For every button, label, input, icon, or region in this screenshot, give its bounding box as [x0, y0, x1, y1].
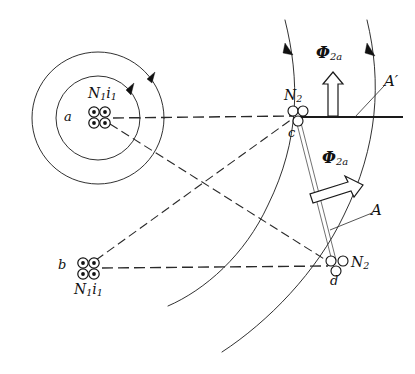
label-phi-diagonal: Φ — [322, 148, 336, 167]
label-axis-a-prime: A′ — [384, 74, 398, 89]
label-point-c: c — [288, 126, 295, 139]
label-primary-mmf-top: N1i1 — [88, 86, 117, 102]
leader-a-prime — [355, 86, 384, 117]
label-secondary-top: N2 — [284, 88, 302, 104]
label-N2-top-sub: 2 — [296, 93, 302, 104]
leader-a — [330, 213, 372, 230]
label-secondary-bottom: N2 — [351, 255, 369, 271]
label-i-bottom-sub: 1 — [97, 287, 103, 298]
label-axis-a: A — [371, 203, 382, 218]
hollow-block-arrow-up — [323, 72, 343, 116]
label-flux-vertical: Φ2a — [316, 45, 342, 62]
label-point-a: a — [64, 110, 72, 123]
outer-circle-arrowhead — [147, 72, 155, 83]
label-i-top-sub: 1 — [111, 91, 117, 102]
label-phi-vertical-sub: 2a — [330, 51, 342, 62]
secondary-coil-c — [288, 106, 308, 126]
label-phi-vertical: Φ — [316, 43, 330, 62]
label-N-top: N — [88, 85, 100, 101]
inner-circle-arrowhead — [126, 83, 134, 95]
centerline-b-to-d — [102, 266, 328, 268]
outer-field-circle — [32, 52, 164, 184]
diagonal-b-to-c — [96, 119, 292, 260]
primary-coil-a — [89, 107, 110, 128]
label-N2-top: N — [284, 87, 296, 103]
figure-canvas: a N1i1 b N1i1 N2 c N2 d Φ2a Φ2a A′ A — [0, 0, 415, 374]
field-arc-outer-arrowhead — [365, 43, 375, 56]
diagram-vector-layer — [0, 0, 415, 374]
label-phi-diagonal-sub: 2a — [336, 156, 348, 167]
label-primary-mmf-bottom: N1i1 — [74, 282, 103, 298]
label-N-bottom: N — [74, 281, 86, 297]
field-arc-inner-arrowhead — [283, 43, 293, 55]
label-flux-diagonal: Φ2a — [322, 150, 348, 167]
primary-coil-b — [78, 258, 99, 279]
label-point-d: d — [330, 274, 338, 287]
label-point-b: b — [58, 258, 66, 271]
label-N2-bottom: N — [351, 254, 363, 270]
label-N2-bottom-sub: 2 — [363, 260, 369, 271]
diagonal-a-to-d — [110, 124, 329, 262]
